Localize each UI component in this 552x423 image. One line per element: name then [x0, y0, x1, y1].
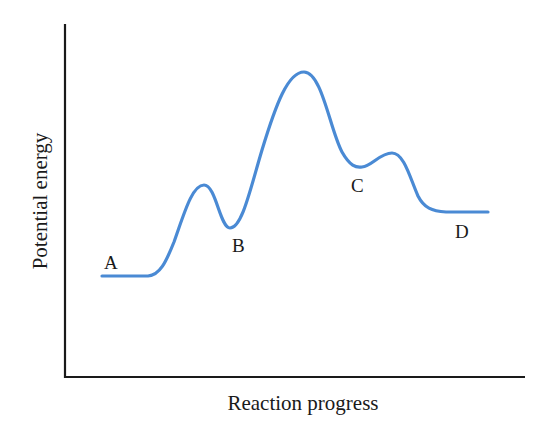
point-label-d: D: [455, 221, 469, 242]
point-label-c: C: [351, 175, 364, 196]
point-label-b: B: [232, 235, 245, 256]
x-axis-label: Reaction progress: [227, 391, 378, 415]
y-axis-label: Potential energy: [28, 132, 52, 269]
energy-diagram-chart: A B C D Reaction progress Potential ener…: [0, 0, 552, 423]
energy-curve: [102, 72, 488, 276]
point-label-a: A: [104, 252, 118, 273]
